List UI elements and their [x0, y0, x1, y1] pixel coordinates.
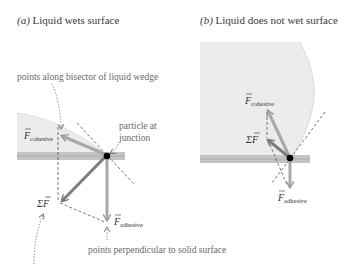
label-sum-f-a: ΣF — [36, 198, 50, 209]
diag-dashed-a — [60, 203, 105, 222]
net-force-arrow-a — [62, 155, 107, 201]
panel-a: (a) Liquid wets surface Fcohesive ΣF Fad… — [17, 14, 226, 264]
panel-b-title: (b) Liquid does not wet surface — [200, 14, 338, 27]
particle-a — [104, 153, 111, 160]
label-f-adhesive-a: Fadhesive — [113, 216, 143, 228]
panel-a-title: (a) Liquid wets surface — [17, 14, 119, 27]
label-particle-junction-2: junction — [118, 133, 150, 143]
diagram-canvas: (a) Liquid wets surface Fcohesive ΣF Fad… — [0, 0, 339, 264]
sum-pointer-a — [34, 215, 43, 264]
label-f-adhesive-b: Fadhesive — [277, 192, 307, 204]
label-sum-f-b: ΣF — [245, 134, 259, 145]
label-particle-junction: particle at — [119, 121, 157, 131]
annotation-perpendicular: points perpendicular to solid surface — [88, 245, 226, 255]
particle-b — [287, 155, 294, 162]
panel-b: (b) Liquid does not wet surface Fcohesiv… — [200, 14, 338, 204]
annotation-bisector: points along bisector of liquid wedge — [17, 72, 158, 82]
